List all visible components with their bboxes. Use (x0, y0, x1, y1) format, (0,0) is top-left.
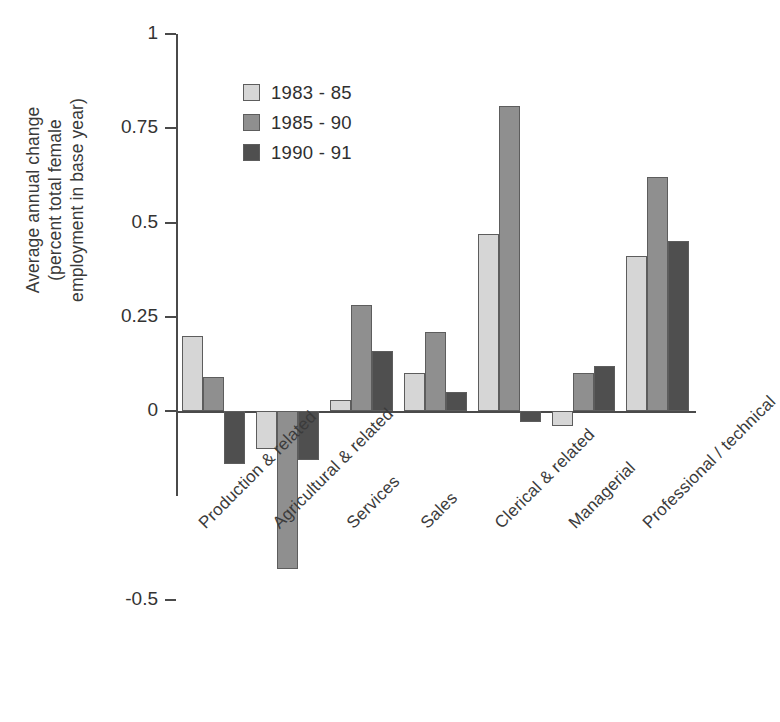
bar[interactable] (594, 366, 615, 411)
y-axis-tick-label: 1 (88, 23, 158, 42)
bar[interactable] (425, 332, 446, 411)
bar[interactable] (372, 351, 393, 411)
bar-group (552, 34, 626, 496)
y-axis-tick-label: -0.5 (88, 589, 158, 608)
bar[interactable] (224, 411, 245, 464)
bar[interactable] (182, 336, 203, 411)
bar[interactable] (499, 106, 520, 411)
bar-group (626, 34, 700, 496)
y-axis-tick (165, 599, 176, 601)
bar[interactable] (478, 234, 499, 411)
bar[interactable] (446, 392, 467, 411)
bar[interactable] (404, 373, 425, 411)
y-axis-tick-label: 0 (88, 400, 158, 419)
bar[interactable] (626, 256, 647, 411)
y-axis-tick-label: 0.25 (88, 306, 158, 325)
bar[interactable] (668, 241, 689, 411)
plot-area (176, 34, 700, 496)
y-axis-title-line-2: (percent total female (44, 119, 66, 281)
bar[interactable] (573, 373, 594, 411)
bar-group (478, 34, 552, 496)
y-axis-title: Average annual change (percent total fem… (15, 30, 95, 370)
y-axis-tick-label: 0.5 (88, 212, 158, 231)
y-axis-tick-label: 0.75 (88, 117, 158, 136)
bar[interactable] (520, 411, 541, 422)
bar[interactable] (330, 400, 351, 411)
bar[interactable] (647, 177, 668, 411)
bar[interactable] (351, 305, 372, 411)
bar[interactable] (552, 411, 573, 426)
y-axis-tick (165, 127, 176, 129)
y-axis-tick (165, 316, 176, 318)
y-axis-title-line-1: Average annual change (22, 107, 44, 294)
y-axis-tick (165, 222, 176, 224)
y-axis-tick (165, 410, 176, 412)
bar-group (182, 34, 256, 496)
y-axis-tick (165, 33, 176, 35)
bar[interactable] (203, 377, 224, 411)
bar-group (404, 34, 478, 496)
y-axis-title-line-3: employment in base year) (66, 98, 88, 302)
